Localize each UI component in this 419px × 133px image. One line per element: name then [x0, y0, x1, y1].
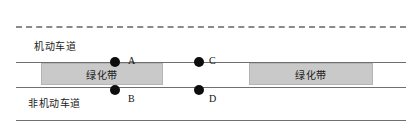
green-belt-left: 绿化带 [41, 63, 163, 85]
green-belt-left-label: 绿化带 [86, 67, 118, 82]
point-b-label: B [128, 93, 135, 104]
point-c-marker [194, 57, 204, 67]
point-c-label: C [209, 55, 216, 66]
point-d-marker [194, 85, 204, 95]
point-a-marker [110, 57, 120, 67]
green-belt-right-label: 绿化带 [295, 67, 327, 82]
green-belt-right: 绿化带 [249, 63, 373, 85]
point-a-label: A [128, 55, 135, 66]
bottom-edge-line [16, 120, 406, 121]
point-b-marker [110, 85, 120, 95]
dashed-lane-divider-line [16, 26, 406, 28]
point-d-label: D [209, 93, 216, 104]
lower-boundary-line [16, 87, 406, 88]
motor-lane-label: 机动车道 [34, 38, 76, 53]
road-cross-section-diagram: 机动车道 绿化带 绿化带 非机动车道 A B C D [0, 0, 419, 133]
non-motor-lane-label: 非机动车道 [28, 95, 81, 110]
